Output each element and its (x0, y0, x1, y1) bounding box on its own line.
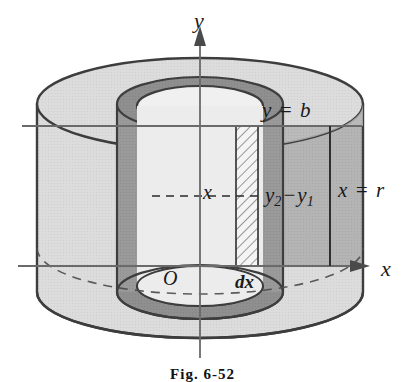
x-axis-label: x (381, 258, 391, 280)
figure-container: y x O y = b x = r y2−y1 x dx Fig. 6-52 (0, 0, 405, 382)
height-difference-y1-base: y (297, 183, 306, 207)
minus-sign: − (281, 183, 297, 207)
height-difference-y2-base: y (265, 183, 274, 207)
origin-label: O (163, 268, 177, 288)
thickness-label: dx (235, 272, 254, 291)
top-plane-label: y = b (262, 100, 312, 121)
height-difference-label: y2−y1 (265, 185, 314, 208)
figure-caption: Fig. 6-52 (0, 366, 405, 382)
height-difference-sub-1: 1 (307, 193, 314, 209)
outer-radius-label: x = r (338, 180, 385, 201)
y-axis-label: y (194, 10, 204, 32)
radius-variable-label: x (203, 182, 212, 202)
